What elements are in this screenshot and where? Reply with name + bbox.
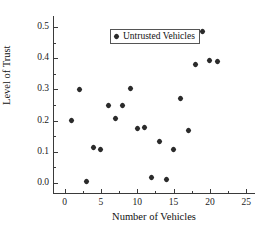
x-tick-label: 25 [242, 198, 252, 208]
y-tick [54, 27, 58, 28]
data-point [156, 138, 163, 145]
y-tick-label: 0.0 [37, 178, 49, 188]
y-tick-label: 0.4 [37, 53, 49, 63]
data-point [199, 28, 206, 35]
data-point [206, 57, 213, 64]
y-tick-label: 0.1 [37, 147, 49, 157]
data-point [185, 127, 192, 134]
data-point [90, 144, 97, 151]
y-tick [54, 121, 58, 122]
y-tick [54, 152, 58, 153]
y-minor-tick [54, 167, 56, 168]
data-point [163, 176, 170, 183]
data-point [214, 58, 221, 65]
x-minor-tick [83, 191, 84, 193]
x-tick [246, 189, 247, 193]
data-point [192, 61, 199, 68]
data-point [148, 174, 155, 181]
y-tick [54, 58, 58, 59]
x-minor-tick [119, 191, 120, 193]
data-point [112, 115, 119, 122]
data-point [105, 102, 112, 109]
x-tick-label: 10 [133, 198, 143, 208]
x-tick [174, 189, 175, 193]
scatter-chart-figure: 0.00.10.20.30.40.5 0510152025 Untrusted … [0, 0, 268, 236]
plot-area: 0.00.10.20.30.40.5 0510152025 Untrusted … [53, 16, 255, 194]
y-tick-label: 0.5 [37, 22, 49, 32]
x-minor-tick [155, 191, 156, 193]
x-tick-label: 20 [205, 198, 215, 208]
y-tick [54, 183, 58, 184]
x-axis-line [53, 193, 255, 194]
x-tick [65, 189, 66, 193]
legend-entry-label: Untrusted Vehicles [123, 31, 195, 41]
y-tick-label: 0.3 [37, 85, 49, 95]
y-minor-tick [54, 136, 56, 137]
y-minor-tick [54, 105, 56, 106]
y-tick-label: 0.2 [37, 116, 49, 126]
diamond-marker-icon [113, 33, 120, 40]
x-tick-label: 0 [62, 198, 67, 208]
x-tick-label: 5 [99, 198, 104, 208]
y-axis-title: Level of Trust [2, 45, 13, 105]
chart-legend: Untrusted Vehicles [110, 29, 200, 44]
x-tick [101, 189, 102, 193]
y-minor-tick [54, 43, 56, 44]
x-tick [210, 189, 211, 193]
x-minor-tick [228, 191, 229, 193]
data-point [97, 146, 104, 153]
x-tick-label: 15 [169, 198, 179, 208]
data-point [141, 124, 148, 131]
data-point [126, 85, 133, 92]
x-tick [137, 189, 138, 193]
data-point [119, 101, 126, 108]
x-axis-title: Number of Vehicles [53, 212, 255, 223]
data-point [83, 178, 90, 185]
data-point [76, 86, 83, 93]
y-tick [54, 89, 58, 90]
x-minor-tick [192, 191, 193, 193]
data-point [68, 117, 75, 124]
data-point [170, 146, 177, 153]
data-point [134, 125, 141, 132]
y-minor-tick [54, 74, 56, 75]
data-point [177, 95, 184, 102]
